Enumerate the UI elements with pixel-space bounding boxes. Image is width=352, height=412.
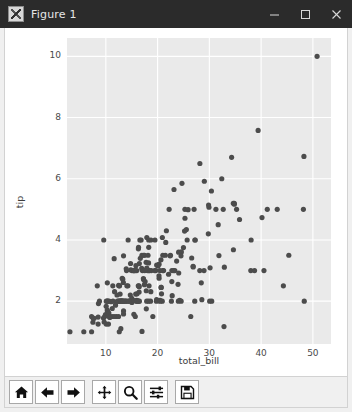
toolbar-separator-2 <box>169 380 174 404</box>
save-button[interactable] <box>175 380 199 404</box>
y-tick-label: 2 <box>39 295 61 305</box>
minimize-button[interactable] <box>259 0 290 28</box>
figure-background: 1020304050246810 total_bill tip <box>5 28 347 376</box>
scatter-plot-axes[interactable] <box>67 38 331 344</box>
close-button[interactable] <box>321 0 352 28</box>
home-button[interactable] <box>9 380 33 404</box>
subplots-button[interactable] <box>144 380 168 404</box>
maximize-button[interactable] <box>290 0 321 28</box>
y-tick-label: 4 <box>39 234 61 244</box>
back-button[interactable] <box>35 380 59 404</box>
y-tick-label: 6 <box>39 173 61 183</box>
figure-window: Figure 1 1020304050246810 total_bill tip <box>0 0 352 412</box>
x-axis-label: total_bill <box>67 355 331 366</box>
navigation-toolbar <box>4 376 348 408</box>
pan-button[interactable] <box>92 380 116 404</box>
y-axis-label: tip <box>14 196 25 208</box>
y-tick-label: 10 <box>39 50 61 60</box>
title-bar: Figure 1 <box>0 0 352 28</box>
zoom-button[interactable] <box>118 380 142 404</box>
y-tick-label: 8 <box>39 112 61 122</box>
window-title: Figure 1 <box>31 8 77 21</box>
scatter-points <box>67 38 331 344</box>
window-controls <box>259 0 352 28</box>
toolbar-separator <box>86 380 91 404</box>
matplotlib-figure-icon <box>8 6 24 22</box>
forward-button[interactable] <box>61 380 85 404</box>
figure-canvas[interactable]: 1020304050246810 total_bill tip <box>4 28 348 376</box>
